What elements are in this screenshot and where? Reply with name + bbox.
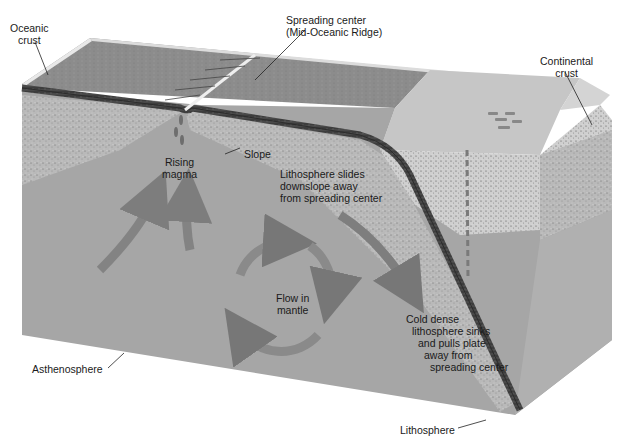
label-oceanic-crust: Oceanic crust xyxy=(10,22,49,46)
label-lithosphere-slides: Lithosphere slides downslope away from s… xyxy=(280,168,382,204)
label-line: crust xyxy=(10,34,49,46)
label-line: downslope away xyxy=(280,180,382,192)
label-flow-in-mantle: Flow in mantle xyxy=(276,292,309,316)
label-line: crust xyxy=(540,67,593,79)
label-line: from spreading center xyxy=(280,192,382,204)
label-line: mantle xyxy=(276,304,309,316)
label-line: away from xyxy=(406,349,508,361)
label-line: Cold dense xyxy=(406,313,508,325)
label-line: and pulls plate xyxy=(406,337,508,349)
label-line: Slope xyxy=(244,148,271,160)
label-continental-crust: Continental crust xyxy=(540,55,593,79)
label-cold-dense: Cold dense lithosphere sinks and pulls p… xyxy=(406,313,508,373)
label-line: Continental xyxy=(540,55,593,67)
label-line: Rising xyxy=(162,156,197,168)
label-line: lithosphere sinks xyxy=(406,325,508,337)
label-line: Oceanic xyxy=(10,22,49,34)
label-spreading-center: Spreading center (Mid-Oceanic Ridge) xyxy=(286,14,382,38)
label-line: Lithosphere xyxy=(400,424,455,436)
label-rising-magma: Rising magma xyxy=(162,156,197,180)
label-lithosphere: Lithosphere xyxy=(400,424,455,436)
label-line: magma xyxy=(162,168,197,180)
label-line: spreading center xyxy=(406,361,508,373)
label-line: Lithosphere slides xyxy=(280,168,382,180)
label-line: Flow in xyxy=(276,292,309,304)
label-slope: Slope xyxy=(244,148,271,160)
label-line: Spreading center xyxy=(286,14,382,26)
label-line: (Mid-Oceanic Ridge) xyxy=(286,26,382,38)
plate-tectonics-diagram xyxy=(0,0,626,446)
label-asthenosphere: Asthenosphere xyxy=(32,363,103,375)
label-line: Asthenosphere xyxy=(32,363,103,375)
